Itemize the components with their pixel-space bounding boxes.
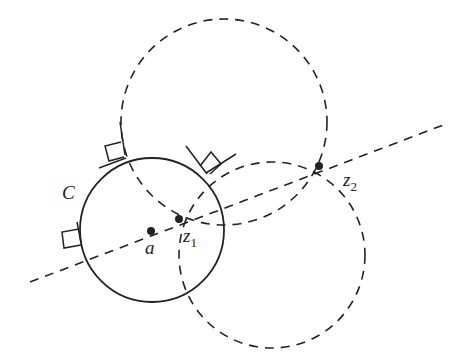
label-circle-c: C — [62, 183, 75, 202]
label-z1: z1 — [183, 226, 197, 249]
upper-orthogonal-circle — [121, 19, 327, 225]
right-angle-marker-top-left — [99, 122, 126, 168]
label-a-text: a — [145, 237, 155, 258]
label-z1-sub: 1 — [190, 235, 197, 250]
point-z2 — [315, 162, 323, 170]
label-a: a — [145, 238, 155, 257]
diagram-canvas: C a z1 z2 — [0, 0, 471, 355]
geometry-figure — [0, 0, 471, 355]
point-a — [147, 227, 155, 235]
label-z2: z2 — [343, 170, 357, 193]
point-z1 — [175, 215, 183, 223]
right-angle-marker-top-right — [186, 146, 236, 174]
dashed-line-through-points — [30, 124, 446, 282]
right-angle-marker-left — [62, 222, 81, 248]
label-c-text: C — [62, 182, 75, 203]
label-z2-sub: 2 — [350, 179, 357, 194]
